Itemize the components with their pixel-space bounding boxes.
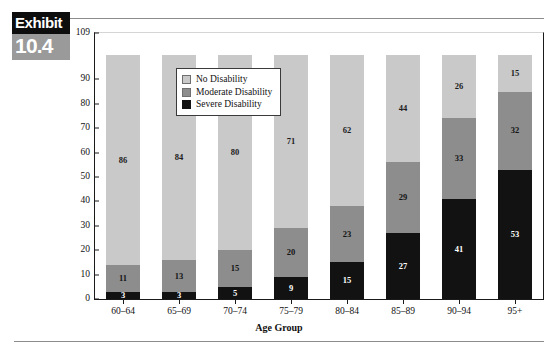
bar-segment: 3 — [162, 292, 196, 299]
bar-segment: 15 — [218, 250, 252, 287]
y-axis-tick-label: 80 — [81, 98, 91, 108]
bar-segment: 9 — [274, 277, 308, 299]
x-axis-tick-mark — [291, 300, 292, 304]
y-axis-tick-label: 50 — [81, 171, 91, 181]
bar-segment-value: 3 — [121, 291, 125, 300]
x-axis-tick-mark — [123, 300, 124, 304]
plot-area: 8611384133801557120962231544292726334115… — [95, 33, 543, 299]
x-axis-tick-label: 90–94 — [447, 306, 471, 316]
bar-segment-value: 29 — [399, 193, 408, 202]
bar-segment: 27 — [386, 233, 420, 299]
bar-segment-value: 26 — [455, 82, 464, 91]
exhibit-badge: Exhibit 10.4 — [12, 12, 70, 60]
bar-stack: 263341 — [442, 55, 476, 299]
legend-item-moderate-disability: Moderate Disability — [182, 86, 272, 98]
legend-swatch-moderate-disability — [182, 88, 191, 97]
bar-segment: 15 — [498, 55, 532, 92]
bar-segment: 15 — [330, 262, 364, 299]
bar-segment-value: 15 — [231, 264, 240, 273]
bar-segment-value: 71 — [287, 137, 296, 146]
bar-segment: 26 — [442, 55, 476, 118]
bar-segment-value: 84 — [175, 153, 184, 162]
bar-stack: 86113 — [106, 55, 140, 299]
x-axis-tick-mark — [347, 300, 348, 304]
bar-segment: 32 — [498, 92, 532, 170]
bar-stack: 442927 — [386, 55, 420, 299]
legend-label-moderate-disability: Moderate Disability — [196, 87, 272, 98]
bar-segment: 86 — [106, 55, 140, 265]
bar-segment: 33 — [442, 118, 476, 199]
y-axis-tick-label: 60 — [81, 147, 91, 157]
bar-segment: 29 — [386, 162, 420, 233]
bar-segment-value: 27 — [399, 262, 408, 271]
legend-swatch-no-disability — [182, 75, 191, 84]
bar-segment-value: 62 — [343, 126, 352, 135]
y-axis-tick-label: 40 — [81, 195, 91, 205]
bar-segment: 5 — [218, 287, 252, 299]
chart-legend: No Disability Moderate Disability Severe… — [176, 68, 281, 116]
x-axis-tick-mark — [515, 300, 516, 304]
x-axis-tick-mark — [459, 300, 460, 304]
x-axis-tick-label: 95+ — [508, 306, 523, 316]
bar-segment: 41 — [442, 199, 476, 299]
y-axis-tick-label: 10 — [81, 269, 91, 279]
bar-segment-value: 11 — [119, 274, 127, 283]
y-axis-tick-label: 20 — [81, 244, 91, 254]
y-axis-tick-label: 90 — [81, 73, 91, 83]
bar-segment-value: 32 — [511, 126, 520, 135]
bar-segment: 20 — [274, 228, 308, 277]
bar-segment: 13 — [162, 260, 196, 292]
x-axis-tick-label: 65–69 — [167, 306, 191, 316]
bar-segment-value: 23 — [343, 230, 352, 239]
legend-swatch-severe-disability — [182, 100, 191, 109]
bar-segment: 53 — [498, 170, 532, 299]
bar-segment-value: 3 — [177, 291, 181, 300]
legend-item-no-disability: No Disability — [182, 74, 272, 86]
bar-segment-value: 41 — [455, 245, 464, 254]
bar-segment: 3 — [106, 292, 140, 299]
y-axis-tick-labels: 0102030405060708090109 — [58, 32, 90, 300]
bar-segment: 62 — [330, 55, 364, 206]
bar-segment: 11 — [106, 265, 140, 292]
exhibit-number: 10.4 — [15, 33, 53, 59]
x-axis-title: Age Group — [0, 322, 558, 333]
x-axis-tick-label: 85–89 — [391, 306, 415, 316]
legend-label-no-disability: No Disability — [196, 74, 247, 85]
x-axis-tick-label: 75–79 — [279, 306, 303, 316]
bar-segment-value: 53 — [511, 230, 520, 239]
bar-segment-value: 20 — [287, 248, 296, 257]
y-axis-tick-label: 30 — [81, 220, 91, 230]
x-axis-tick-label: 60–64 — [111, 306, 135, 316]
bar-segment: 23 — [330, 206, 364, 262]
bar-segment-value: 33 — [455, 154, 464, 163]
x-axis-tick-mark — [179, 300, 180, 304]
x-axis-tick-mark — [235, 300, 236, 304]
x-axis-tick-mark — [403, 300, 404, 304]
bar-segment-value: 80 — [231, 148, 240, 157]
legend-label-severe-disability: Severe Disability — [196, 99, 262, 110]
bottom-rule — [14, 341, 544, 342]
y-axis-tick-label: 109 — [76, 27, 90, 37]
bar-segment: 44 — [386, 55, 420, 162]
bar-segment-value: 44 — [399, 104, 408, 113]
bar-stack: 153253 — [498, 55, 532, 299]
bar-segment-value: 15 — [511, 69, 520, 78]
bar-segment-value: 13 — [175, 272, 184, 281]
y-axis-tick-label: 70 — [81, 122, 91, 132]
top-rule — [14, 18, 544, 19]
exhibit-label: Exhibit — [15, 13, 62, 33]
bar-segment-value: 5 — [233, 289, 237, 298]
bar-stack: 622315 — [330, 55, 364, 299]
x-axis-tick-label: 70–74 — [223, 306, 247, 316]
bar-segment-value: 9 — [289, 284, 293, 293]
x-axis-tick-label: 80–84 — [335, 306, 359, 316]
bar-segment-value: 15 — [343, 276, 352, 285]
y-axis-tick-label: 0 — [85, 293, 90, 303]
legend-item-severe-disability: Severe Disability — [182, 99, 272, 111]
bar-segment-value: 86 — [119, 156, 128, 165]
